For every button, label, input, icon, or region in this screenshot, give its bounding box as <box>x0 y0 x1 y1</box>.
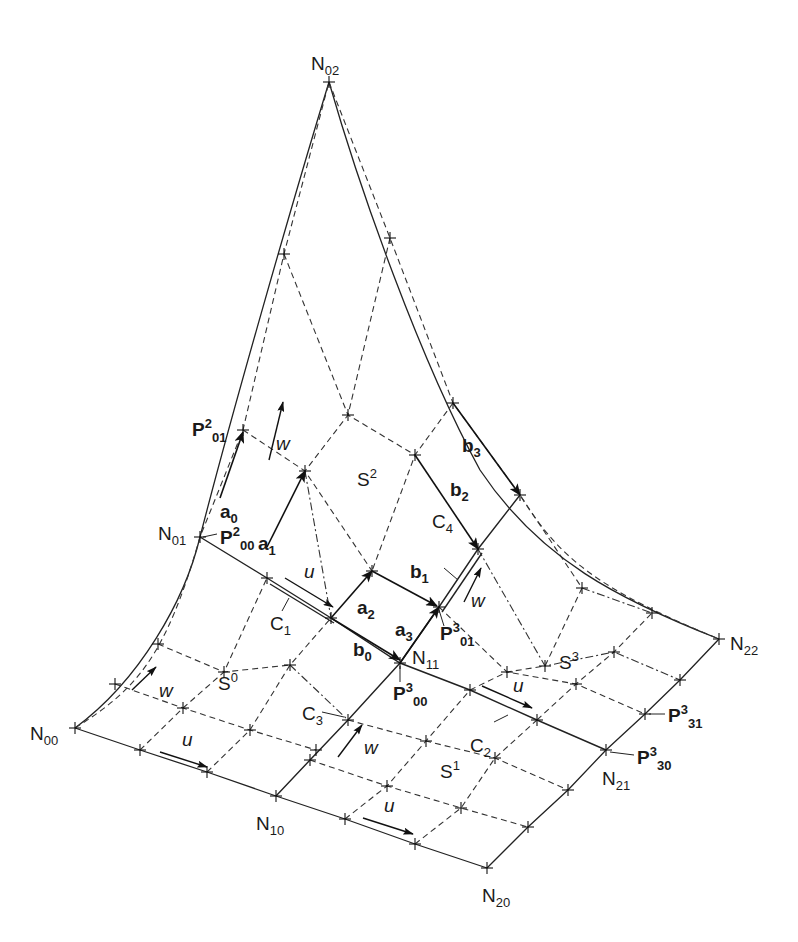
cross-marker-icon <box>69 722 81 734</box>
boundary-right <box>329 82 719 639</box>
node-label-N02: N02 <box>311 53 339 78</box>
point-label-P331: P331 <box>668 702 702 731</box>
curve-label-C3: C3 <box>302 703 323 728</box>
direction-label-u: u <box>513 675 524 696</box>
vector-label-b1: b1 <box>410 561 429 586</box>
direction-label-w: w <box>364 737 379 758</box>
leader-C1 <box>282 598 289 611</box>
node-label-N22: N22 <box>730 633 758 658</box>
cross-marker-icon <box>409 838 421 850</box>
cross-marker-icon <box>342 409 354 421</box>
net-line <box>582 588 652 613</box>
node-label-N21: N21 <box>602 768 630 793</box>
net-line <box>305 238 390 471</box>
vector-label-b2: b2 <box>450 479 469 504</box>
cross-marker-icon <box>310 744 322 756</box>
cross-marker-icon <box>608 646 620 658</box>
patch-label-S0: S0 <box>218 670 238 694</box>
node-label-N20: N20 <box>482 885 510 910</box>
vector-label-a1: a1 <box>258 533 276 558</box>
patch-label-S2: S2 <box>357 466 377 490</box>
point-label-P330: P330 <box>637 744 671 773</box>
cross-marker-icon <box>539 660 551 672</box>
cross-marker-icon <box>570 678 582 690</box>
point-label-P201: P201 <box>192 416 226 445</box>
point-label-P200: P200 <box>220 524 254 553</box>
leader-C2 <box>494 715 508 722</box>
direction-u-arrow-icon <box>363 818 413 834</box>
point-label-P301: P301 <box>440 620 474 649</box>
cross-marker-icon <box>384 232 396 244</box>
direction-label-u: u <box>384 795 395 816</box>
patch-label-S1: S1 <box>440 758 460 782</box>
leader-C4 <box>444 568 458 580</box>
leader-P200 <box>203 534 217 537</box>
net-line <box>310 760 528 827</box>
direction-label-u: u <box>304 561 315 582</box>
net-line <box>290 665 348 720</box>
net-line <box>537 613 652 720</box>
vector-label-a0: a0 <box>220 501 238 526</box>
vector-label-b3: b3 <box>462 435 481 460</box>
curve-label-C2: C2 <box>470 735 491 760</box>
node-label-N00: N00 <box>30 723 58 748</box>
curve-label-C1: C1 <box>270 613 291 638</box>
labels: N00N10N20N01N11N21N02N22P200P201P300P301… <box>30 53 758 910</box>
net-line <box>305 471 331 618</box>
net-line <box>207 618 331 772</box>
curve-label-C4: C4 <box>432 511 453 536</box>
node-label-N11: N11 <box>412 647 439 672</box>
leader-P330 <box>610 752 634 755</box>
vector-label-a2: a2 <box>357 597 375 622</box>
cross-marker-icon <box>501 666 513 678</box>
direction-w-arrow-icon <box>132 667 156 690</box>
net-line <box>478 549 680 680</box>
patch-label-S3: S3 <box>559 649 579 673</box>
cross-marker-icon <box>381 780 393 792</box>
node-label-N01: N01 <box>158 523 186 548</box>
boundary-bottom <box>75 728 487 868</box>
direction-u-arrow-icon <box>285 578 333 607</box>
label-leaders <box>203 534 665 755</box>
boundary-right-edge <box>487 639 719 868</box>
direction-label-w: w <box>471 590 486 611</box>
direction-label-w: w <box>276 433 291 454</box>
direction-w-arrow-icon <box>338 725 362 757</box>
net-line <box>372 403 453 571</box>
point-label-P300: P300 <box>393 680 427 709</box>
cross-marker-icon <box>261 572 273 584</box>
net-line <box>284 254 415 455</box>
curve-C1-C2 <box>200 537 606 750</box>
direction-label-u: u <box>182 729 193 750</box>
direction-u-arrow-icon <box>482 686 532 708</box>
cross-marker-icon <box>420 735 432 747</box>
cross-marker-icon <box>576 582 588 594</box>
cross-marker-icon <box>455 802 467 814</box>
vector-a1-arrow <box>267 471 305 547</box>
surface-network-diagram: N00N10N20N01N11N21N02N22P200P201P300P301… <box>0 0 798 942</box>
boundary-right-control <box>329 82 719 639</box>
vector-label-a3: a3 <box>395 619 413 644</box>
cross-marker-icon <box>339 813 351 825</box>
net-line <box>140 578 267 750</box>
net-line <box>115 684 316 750</box>
direction-label-w: w <box>159 680 174 701</box>
net-line <box>348 720 568 790</box>
node-label-N10: N10 <box>256 813 284 838</box>
boundary-curves <box>75 82 719 868</box>
